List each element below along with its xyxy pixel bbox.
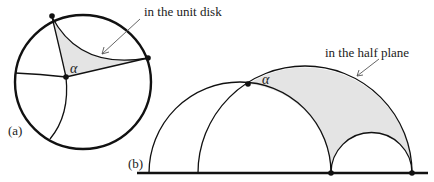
vertex-dot bbox=[245, 81, 251, 87]
geodesic-disk-4 bbox=[15, 73, 66, 77]
panel-tag-b: (b) bbox=[128, 157, 143, 170]
vertex-dot bbox=[63, 74, 69, 80]
panel-b-half-plane bbox=[137, 59, 428, 176]
panel-tag-a: (a) bbox=[8, 124, 22, 137]
angle-label-alpha-disk: α bbox=[70, 62, 77, 76]
hyperbolic-triangle-figure bbox=[0, 0, 434, 182]
vertex-dot bbox=[145, 55, 151, 61]
angle-label-alpha-half-plane: α bbox=[262, 73, 269, 87]
vertex-dot bbox=[409, 170, 415, 176]
shaded-triangle-disk bbox=[52, 17, 148, 77]
arrow-line-half-plane bbox=[357, 59, 379, 76]
panel-a-unit-disk bbox=[15, 13, 151, 149]
geodesic-disk-5 bbox=[50, 77, 67, 139]
annotation-half-plane: in the half plane bbox=[325, 46, 409, 59]
unit-disk-boundary bbox=[15, 15, 151, 149]
vertex-dot bbox=[328, 170, 334, 176]
annotation-unit-disk: in the unit disk bbox=[144, 5, 222, 18]
vertex-dot bbox=[49, 13, 55, 19]
